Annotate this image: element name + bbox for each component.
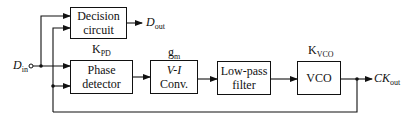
gm-label: gm (168, 45, 180, 61)
phase-detector-block: Phasedetector (70, 60, 133, 94)
lpf-line2: filter (232, 78, 255, 92)
connection-lines (0, 0, 418, 119)
vi-line2: Conv. (160, 77, 188, 91)
vi-line1: V-I (167, 63, 182, 77)
pd-line2: detector (82, 77, 121, 91)
vco-label: VCO (306, 71, 331, 85)
pd-line1: Phase (88, 63, 116, 77)
decision-circuit-block: Decisioncircuit (70, 7, 127, 39)
decision-line1: Decision (77, 9, 120, 23)
decision-line2: circuit (83, 23, 114, 37)
vco-block: VCO (297, 61, 341, 95)
low-pass-filter-block: Low-passfilter (217, 61, 271, 95)
vi-converter-block: V-IConv. (150, 60, 198, 94)
dout-label: Dout (146, 15, 165, 31)
kvco-label: KVCO (308, 43, 334, 59)
kpd-label: KPD (92, 42, 111, 58)
ckout-label: CKout (374, 71, 400, 87)
lpf-line1: Low-pass (221, 64, 268, 78)
din-label: Din (13, 58, 28, 74)
